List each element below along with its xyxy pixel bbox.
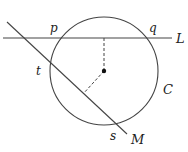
perpendicular-to-m xyxy=(83,71,104,94)
label-t: t xyxy=(36,64,41,78)
label-p: p xyxy=(50,21,58,35)
label-s: s xyxy=(110,129,116,143)
geometry-diagram: p q L t C s M xyxy=(0,0,188,152)
line-m xyxy=(7,22,127,134)
center-point xyxy=(102,69,106,73)
label-l: L xyxy=(175,31,185,46)
label-c: C xyxy=(163,82,173,97)
label-q: q xyxy=(149,21,157,35)
label-m: M xyxy=(130,132,145,147)
